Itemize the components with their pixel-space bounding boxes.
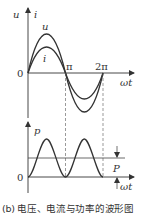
y-axis-label-i: i (34, 9, 37, 20)
p-axis-label: p (34, 125, 41, 136)
x-axis-label-top: ωt (120, 77, 133, 88)
origin-label-bottom: 0 (17, 172, 23, 183)
ui-chart: u i 0 π 2π ωt u i (13, 8, 134, 118)
tick-2pi: 2π (95, 61, 108, 72)
power-chart: p 0 ωt P (17, 122, 134, 193)
tick-pi: π (66, 61, 73, 72)
waveform-figure: u i 0 π 2π ωt u i p 0 ωt P (0, 0, 145, 220)
y-axis-label-u: u (13, 9, 19, 20)
average-power-label: P (112, 163, 120, 174)
curve-u-label: u (42, 21, 48, 32)
x-axis-label-bottom: ωt (120, 181, 133, 192)
origin-label-top: 0 (17, 68, 23, 79)
curve-i-label: i (43, 53, 46, 64)
figure-caption: (b) 电压、电流与功率的波形图 (0, 201, 145, 215)
